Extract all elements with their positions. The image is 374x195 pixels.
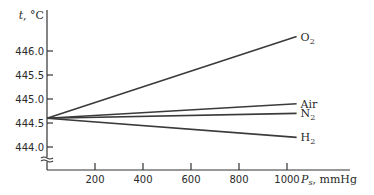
y-axis-break-icon xyxy=(41,157,53,162)
series-label-h2: H2 xyxy=(301,131,316,146)
y-tick-label: 445.5 xyxy=(15,70,44,81)
x-tick-label: 400 xyxy=(133,174,152,185)
x-axis: 2004006008001000Ps, mmHg xyxy=(47,163,357,187)
y-tick-label: 444.0 xyxy=(15,142,44,153)
y-axis: 444.0444.5445.0445.5446.0t, °C xyxy=(15,9,53,170)
chart-canvas: 444.0444.5445.0445.5446.0t, °C 200400600… xyxy=(0,0,374,195)
y-tick-label: 444.5 xyxy=(15,118,44,129)
y-axis-title: t, °C xyxy=(19,9,44,22)
x-tick-label: 1000 xyxy=(274,174,299,185)
x-axis-title: Ps, mmHg xyxy=(300,173,357,187)
series-lines xyxy=(47,37,297,138)
y-tick-label: 446.0 xyxy=(15,46,44,57)
x-tick-label: 200 xyxy=(85,174,104,185)
x-tick-label: 800 xyxy=(229,174,248,185)
series-labels: O2AirN2H2 xyxy=(300,31,318,147)
series-line-h2 xyxy=(47,118,297,137)
series-label-o2: O2 xyxy=(301,31,315,46)
y-tick-label: 445.0 xyxy=(15,94,44,105)
x-tick-label: 600 xyxy=(181,174,200,185)
